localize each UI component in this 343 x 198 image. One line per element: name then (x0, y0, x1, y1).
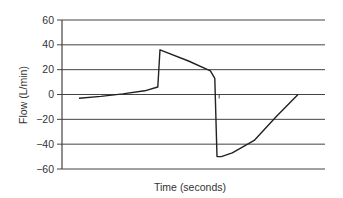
y-tick-label: −40 (36, 138, 54, 150)
y-tick-label: 0 (48, 88, 54, 100)
y-tick-label: 60 (42, 14, 54, 26)
flow-time-chart: 6040200−20−40−60 Flow (L/min) Time (seco… (0, 0, 343, 198)
y-tick-labels: 6040200−20−40−60 (36, 14, 54, 175)
horizontal-gridlines (57, 20, 325, 169)
y-tick-label: −20 (36, 113, 54, 125)
y-tick-label: 20 (42, 63, 54, 75)
y-tick-label: −60 (36, 163, 54, 175)
flow-curve (79, 50, 298, 157)
x-axis-title: Time (seconds) (154, 181, 226, 193)
y-axis-title: Flow (L/min) (17, 66, 29, 124)
y-tick-label: 40 (42, 38, 54, 50)
